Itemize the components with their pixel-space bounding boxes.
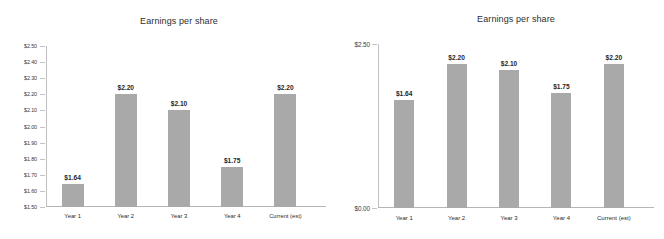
bar-group-left: $1.64Year 1$2.20Year 2$2.10Year 3$1.75Ye…: [46, 46, 312, 207]
bar-value-label: $2.20: [277, 84, 294, 91]
bar-slot: $2.20Year 2: [99, 46, 152, 207]
x-axis-category-label: Year 3: [171, 213, 188, 219]
y-axis-tick: [40, 175, 45, 176]
bar[interactable]: $2.10: [499, 70, 519, 208]
plot-area-right: $1.64Year 1$2.20Year 2$2.10Year 3$1.75Ye…: [378, 44, 640, 208]
bar-value-label: $2.10: [171, 100, 188, 107]
x-axis-category-label: Year 2: [118, 213, 135, 219]
bar[interactable]: $1.64: [394, 100, 414, 208]
y-axis-tick: [40, 110, 45, 111]
y-axis-tick-label: $1.70: [24, 172, 37, 178]
y-axis-tick: [40, 191, 45, 192]
bar-slot: $2.20Year 2: [430, 44, 482, 208]
y-axis-tick: [40, 127, 45, 128]
x-axis-category-label: Year 4: [224, 213, 241, 219]
bar-slot: $2.20Current (est): [588, 44, 640, 208]
y-axis-tick-label: $0.00: [355, 205, 371, 212]
y-axis-tick-label: $2.20: [24, 91, 37, 97]
bar-slot: $1.64Year 1: [378, 44, 430, 208]
bar[interactable]: $1.75: [221, 167, 243, 207]
y-axis-tick: [372, 208, 377, 209]
y-axis-tick: [40, 62, 45, 63]
chart-title-right: Earnings per share: [368, 14, 664, 24]
y-axis-tick-label: $2.30: [24, 75, 37, 81]
y-axis-tick: [40, 207, 45, 208]
y-axis-tick: [372, 44, 377, 45]
two-chart-comparison: Earnings per share $1.64Year 1$2.20Year …: [0, 0, 664, 239]
bar-slot: $1.75Year 4: [206, 46, 259, 207]
bar-value-label: $2.20: [118, 84, 135, 91]
y-axis-tick-label: $2.50: [355, 41, 371, 48]
bar-value-label: $1.64: [64, 174, 81, 181]
bar-value-label: $2.10: [501, 60, 518, 67]
bar-value-label: $1.75: [224, 157, 241, 164]
y-axis-tick: [40, 159, 45, 160]
y-axis-tick-label: $2.00: [24, 124, 37, 130]
bar-slot: $1.75Year 4: [535, 44, 587, 208]
y-axis-tick-label: $2.50: [24, 43, 37, 49]
chart-zero-baseline: Earnings per share $1.64Year 1$2.20Year …: [332, 0, 664, 239]
bar-slot: $1.64Year 1: [46, 46, 99, 207]
y-axis-tick-label: $1.60: [24, 188, 37, 194]
x-axis-category-label: Current (est): [269, 213, 302, 219]
bar[interactable]: $2.20: [274, 94, 296, 207]
bar-value-label: $2.20: [606, 54, 623, 61]
bar[interactable]: $1.64: [62, 184, 84, 207]
x-axis-category-label: Current (est): [597, 215, 631, 221]
x-axis-category-label: Year 4: [553, 215, 570, 221]
bar-value-label: $2.20: [448, 54, 465, 61]
y-axis-tick-label: $1.50: [24, 204, 37, 210]
bar[interactable]: $2.20: [115, 94, 137, 207]
bar-slot: $2.10Year 3: [152, 46, 205, 207]
chart-title-left: Earnings per share: [26, 16, 332, 26]
bar-value-label: $1.75: [553, 83, 570, 90]
bar[interactable]: $1.75: [551, 93, 571, 208]
bar-group-right: $1.64Year 1$2.20Year 2$2.10Year 3$1.75Ye…: [378, 44, 640, 208]
bar-value-label: $1.64: [396, 90, 413, 97]
y-axis-tick-label: $2.40: [24, 59, 37, 65]
x-axis-category-label: Year 1: [64, 213, 81, 219]
bar[interactable]: $2.10: [168, 110, 190, 207]
x-axis-category-label: Year 1: [396, 215, 413, 221]
y-axis-tick: [40, 94, 45, 95]
chart-truncated-axis: Earnings per share $1.64Year 1$2.20Year …: [0, 0, 332, 239]
bar-slot: $2.20Current (est): [259, 46, 312, 207]
y-axis-tick-label: $1.80: [24, 156, 37, 162]
bar[interactable]: $2.20: [604, 64, 624, 208]
x-axis-category-label: Year 2: [448, 215, 465, 221]
plot-area-left: $1.64Year 1$2.20Year 2$2.10Year 3$1.75Ye…: [46, 46, 312, 207]
y-axis-tick-label: $1.90: [24, 140, 37, 146]
y-axis-tick: [40, 46, 45, 47]
bar-slot: $2.10Year 3: [483, 44, 535, 208]
x-axis-category-label: Year 3: [500, 215, 517, 221]
y-axis-tick-label: $2.10: [24, 107, 37, 113]
y-axis-tick: [40, 143, 45, 144]
bar[interactable]: $2.20: [447, 64, 467, 208]
y-axis-tick: [40, 78, 45, 79]
